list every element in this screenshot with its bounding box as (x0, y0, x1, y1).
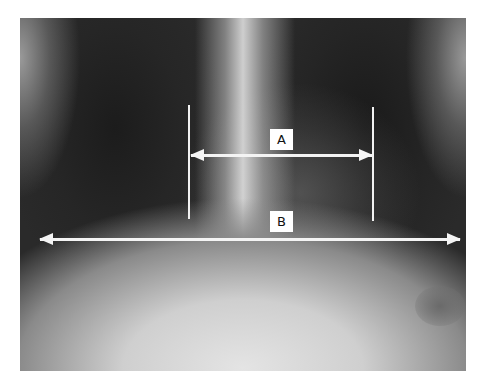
marker-line-right (372, 107, 374, 221)
chest-xray-image (20, 18, 466, 371)
label-a: A (270, 129, 293, 150)
arrow-b (40, 238, 460, 241)
gastric-bubble (415, 286, 465, 326)
arrow-a (191, 154, 372, 157)
abdomen (20, 18, 466, 371)
label-b: B (270, 211, 293, 232)
marker-line-left (188, 105, 190, 219)
